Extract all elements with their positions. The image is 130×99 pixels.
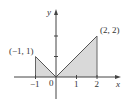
chart: y x −1 0 1 2 (−1, 1) (2, 2) [0, 0, 130, 99]
x-axis-label: x [115, 79, 120, 89]
tick-label-2: 2 [95, 79, 100, 89]
point-label-a: (−1, 1) [9, 46, 34, 56]
shaded-region [36, 36, 98, 77]
tick-label-neg1: −1 [30, 79, 40, 89]
tick-label-0: 0 [49, 78, 54, 88]
y-axis-arrow-icon [54, 9, 58, 15]
tick-label-1: 1 [74, 79, 79, 89]
y-axis-label: y [46, 7, 51, 17]
point-label-b: (2, 2) [100, 25, 120, 35]
